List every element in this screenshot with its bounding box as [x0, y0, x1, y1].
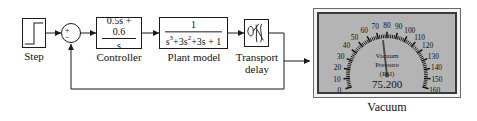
summing-junction[interactable] [61, 23, 81, 43]
gauge-title-line2: Pressure [319, 61, 455, 69]
gauge-tick [394, 35, 395, 39]
gauge-tick [364, 42, 366, 45]
gauge-tick [402, 38, 404, 41]
gauge-block-label: Vacuum [345, 101, 429, 113]
block-plant-model-label: Plant model [152, 51, 236, 63]
gauge-tick [367, 40, 369, 43]
gauge-tick [397, 36, 398, 40]
vacuum-gauge-panel[interactable]: 0102030405060708090100110120130140150160… [313, 8, 461, 98]
plant-fraction-bar [165, 31, 222, 32]
block-diagram-canvas: Step + − 0.5s + 0.6 s Controller 1 s3+3s… [0, 0, 477, 121]
gauge-tick [414, 47, 417, 50]
gauge-face: 0102030405060708090100110120130140150160… [317, 12, 457, 94]
block-step[interactable] [22, 18, 46, 48]
gauge-tick [372, 37, 373, 40]
gauge-tick [356, 48, 359, 50]
gauge-tick [396, 33, 398, 39]
gauge-tick [399, 37, 400, 41]
gauge-tick [376, 36, 377, 40]
gauge-tick [415, 48, 418, 50]
gauge-tick-label: 50 [351, 33, 359, 42]
gauge-tick [365, 41, 367, 44]
gauge-tick-label: 40 [343, 41, 351, 50]
controller-transfer-function: 0.5s + 0.6 s [97, 15, 141, 51]
gauge-tick-label: 60 [361, 26, 369, 35]
gauge-tick [405, 40, 407, 43]
gauge-tick [370, 38, 372, 41]
gauge-tick [377, 33, 379, 39]
gauge-tick-label: 70 [372, 22, 380, 31]
step-signal-icon [23, 19, 45, 47]
controller-denominator: s [97, 40, 141, 51]
gauge-tick-label: 80 [383, 21, 391, 30]
block-step-label: Step [10, 50, 58, 62]
plant-numerator: 1 [160, 19, 227, 30]
gauge-tick-label: 110 [414, 33, 425, 42]
block-transport-delay[interactable] [244, 19, 269, 47]
gauge-tick [381, 35, 382, 39]
block-transport-delay-label-line1: Transport [232, 51, 282, 63]
gauge-tick [408, 42, 410, 45]
controller-fraction-bar [102, 38, 136, 39]
gauge-tick [374, 37, 375, 41]
block-plant-model[interactable]: 1 s3+3s2+3s + 1 [159, 17, 228, 49]
gauge-title-line1: Vacuum [319, 52, 455, 60]
gauge-tick [379, 35, 380, 39]
gauge-tick-label: 90 [395, 22, 403, 31]
block-controller[interactable]: 0.5s + 0.6 s [96, 17, 142, 49]
gauge-tick-label: 120 [422, 41, 433, 50]
block-controller-label: Controller [92, 51, 146, 63]
block-transport-delay-label-line2: delay [232, 63, 282, 75]
gauge-units: (PSI) [319, 70, 455, 78]
gauge-readout-value: 75.200 [319, 78, 455, 90]
sum-minus-sign: − [65, 34, 70, 42]
gauge-tick [401, 37, 402, 40]
gauge-tick [392, 35, 393, 39]
controller-numerator: 0.5s + 0.6 [97, 15, 141, 37]
transport-delay-waveform-icon [245, 20, 268, 46]
plant-denominator: s3+3s2+3s + 1 [160, 33, 227, 46]
gauge-tick [407, 41, 409, 44]
gauge-tick [358, 47, 361, 50]
plant-transfer-function: 1 s3+3s2+3s + 1 [160, 19, 227, 46]
